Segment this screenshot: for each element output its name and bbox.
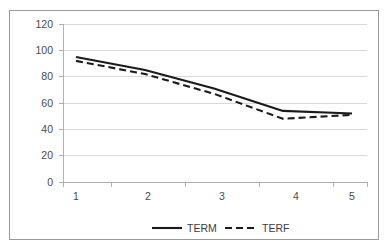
series-line-term xyxy=(76,57,352,114)
x-axis-labels: 1 2 3 4 5 xyxy=(73,190,355,202)
y-tick-label-0: 0 xyxy=(47,176,53,188)
x-tick-label-4: 4 xyxy=(293,190,299,202)
chart-legend: TERM TERF xyxy=(152,222,289,234)
y-tick-label-40: 40 xyxy=(41,123,53,135)
x-tick-label-1: 1 xyxy=(73,190,79,202)
y-tick-label-120: 120 xyxy=(35,18,53,30)
x-tick-label-3: 3 xyxy=(219,190,225,202)
y-tick-label-60: 60 xyxy=(41,97,53,109)
legend-label-term: TERM xyxy=(187,222,217,234)
x-tick-marks xyxy=(63,182,367,187)
series-line-terf xyxy=(76,61,352,119)
x-tick-label-2: 2 xyxy=(145,190,151,202)
y-tick-label-20: 20 xyxy=(41,149,53,161)
legend-label-terf: TERF xyxy=(262,222,289,234)
line-chart: 120 100 80 60 40 20 0 1 2 3 4 5 TERM TER… xyxy=(0,0,390,250)
x-tick-label-5: 5 xyxy=(349,190,355,202)
y-tick-label-80: 80 xyxy=(41,70,53,82)
y-tick-marks xyxy=(59,24,63,182)
y-tick-label-100: 100 xyxy=(35,44,53,56)
series-group xyxy=(76,57,352,119)
y-axis-labels: 120 100 80 60 40 20 0 xyxy=(35,18,53,188)
